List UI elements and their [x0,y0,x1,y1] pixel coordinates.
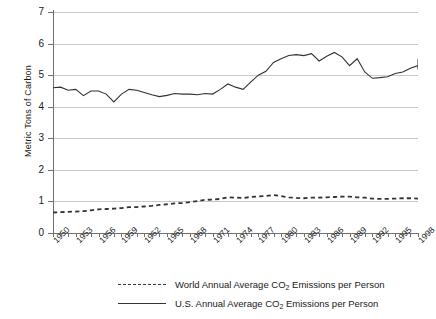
series-line-us [53,52,418,102]
y-tick-label-4: 4 [18,101,44,112]
x-tick-1957 [106,233,107,237]
x-tick-1990 [357,233,358,237]
x-tick-1975 [243,233,244,237]
x-tick-1951 [61,233,62,237]
x-tick-1969 [197,233,198,237]
y-tick-label-5: 5 [18,69,44,80]
legend-label-world-post: Emissions per Person [289,279,384,290]
x-tick-1976 [251,233,252,237]
x-tick-1981 [289,233,290,237]
y-tick-label-1: 1 [18,195,44,206]
series-line-world [53,195,418,212]
legend-label-world-sub: 2 [286,284,290,291]
legend-item-world: World Annual Average CO2 Emissions per P… [118,275,385,294]
legend-label-world: World Annual Average CO2 Emissions per P… [175,279,385,290]
x-tick-1991 [365,233,366,237]
x-tick-1955 [91,233,92,237]
x-tick-1978 [266,233,267,237]
x-tick-1966 [175,233,176,237]
x-tick-1960 [129,233,130,237]
legend-swatch-world-dashed [118,284,166,285]
x-tick-1985 [319,233,320,237]
x-tick-1982 [296,233,297,237]
x-tick-1964 [159,233,160,237]
x-tick-1963 [152,233,153,237]
legend-label-us-post: Emissions per Person [283,298,378,309]
y-tick-label-3: 3 [18,132,44,143]
x-tick-1997 [410,233,411,237]
x-tick-1987 [334,233,335,237]
x-tick-1958 [114,233,115,237]
x-tick-1973 [228,233,229,237]
x-tick-1996 [403,233,404,237]
legend-label-us: U.S. Annual Average CO2 Emissions per Pe… [175,298,378,309]
x-tick-1988 [342,233,343,237]
legend-swatch-us-solid [118,303,166,304]
chart-legend: World Annual Average CO2 Emissions per P… [118,275,385,313]
x-tick-1954 [83,233,84,237]
x-tick-1967 [182,233,183,237]
legend-label-us-sub: 2 [279,303,283,310]
x-tick-1952 [68,233,69,237]
y-tick-label-0: 0 [18,227,44,238]
x-tick-1984 [312,233,313,237]
x-tick-1961 [137,233,138,237]
x-tick-1993 [380,233,381,237]
y-tick-label-6: 6 [18,38,44,49]
x-tick-1970 [205,233,206,237]
legend-label-world-pre: World Annual Average CO [175,279,286,290]
y-tick-label-7: 7 [18,6,44,17]
series-lines [53,12,418,233]
legend-item-us: U.S. Annual Average CO2 Emissions per Pe… [118,294,385,313]
legend-label-us-pre: U.S. Annual Average CO [175,298,279,309]
x-tick-1994 [388,233,389,237]
y-tick-label-2: 2 [18,164,44,175]
x-tick-label-1998: 1998 [416,225,436,245]
x-tick-1979 [274,233,275,237]
x-tick-1972 [220,233,221,237]
